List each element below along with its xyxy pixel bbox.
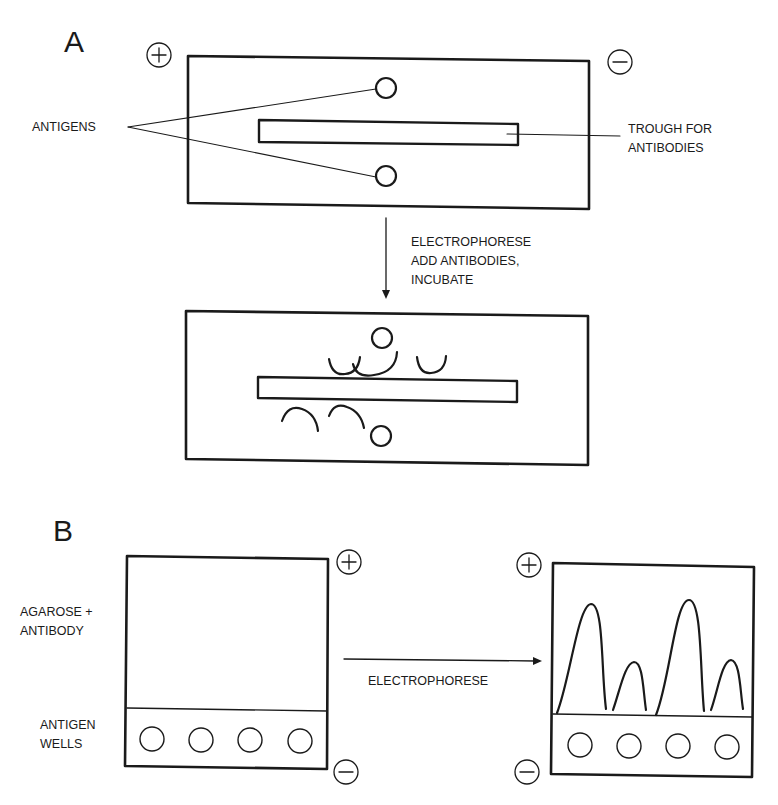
rocket-peak-1 [557, 604, 606, 713]
process-arrow-right [344, 657, 542, 665]
agarose-label-line2: ANTIBODY [20, 623, 84, 639]
antigen-wells-label-line2: WELLS [40, 736, 82, 752]
antibody-trough-after [258, 377, 517, 402]
antigen-well-bottom [376, 166, 396, 186]
wells-divider-after [553, 714, 752, 717]
rocket-peaks [557, 600, 743, 715]
step-label-line1: ELECTROPHORESE [411, 234, 531, 250]
process-arrow-down [382, 218, 390, 299]
gel-slide-after [186, 311, 588, 465]
panel-a-letter: A [64, 27, 84, 57]
rocket-peak-4 [711, 660, 743, 710]
antigen-wells-before [140, 727, 312, 753]
trough-label-line1: TROUGH FOR [628, 121, 712, 137]
agarose-label-line1: AGAROSE + [20, 604, 93, 620]
electrophorese-label: ELECTROPHORESE [368, 673, 488, 689]
panel-b-letter: B [53, 516, 73, 546]
rocket-peak-2 [613, 662, 646, 710]
trough-label-line2: ANTIBODIES [628, 140, 704, 156]
antigen-well-bottom-after [371, 426, 391, 446]
plus-electrode-b-left-icon [337, 550, 361, 574]
minus-electrode-b-left-icon [334, 760, 358, 784]
minus-electrode-b-right-icon [515, 760, 539, 784]
plus-electrode-b-right-icon [517, 553, 541, 577]
wells-divider-before [127, 708, 327, 711]
antigens-leader-lines [128, 89, 376, 177]
antigen-wells-label-line1: ANTIGEN [40, 717, 96, 733]
step-label-line2: ADD ANTIBODIES, [411, 253, 519, 269]
precipitin-arcs-lower [282, 406, 364, 431]
rocket-peak-3 [656, 600, 704, 715]
precipitin-arcs-upper [329, 352, 446, 376]
rocket-gel-before [125, 556, 328, 769]
antigens-label: ANTIGENS [32, 119, 96, 135]
antigen-well-top [376, 78, 396, 98]
minus-electrode-icon [608, 50, 632, 74]
antibody-trough [259, 120, 518, 145]
antigen-wells-after [568, 733, 739, 759]
antigen-well-top-after [372, 328, 392, 348]
trough-leader-line [507, 134, 620, 136]
step-label-line3: INCUBATE [411, 272, 473, 288]
plus-electrode-icon [147, 43, 171, 67]
